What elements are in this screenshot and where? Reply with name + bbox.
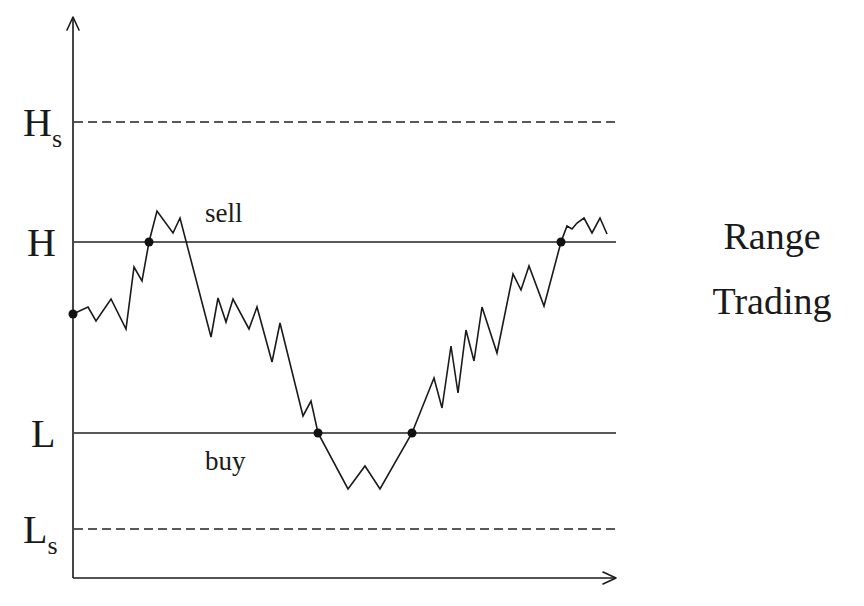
- title-line-2: Trading: [713, 280, 832, 322]
- level-label-h: H: [27, 220, 56, 265]
- level-labels: Hs H L Ls: [23, 100, 62, 560]
- crossing-markers: [69, 238, 566, 438]
- crossing-marker-start: [69, 310, 78, 319]
- price-path: [73, 211, 607, 489]
- buy-annotation: buy: [205, 446, 246, 476]
- title-line-1: Range: [723, 215, 820, 257]
- diagram-title: Range Trading: [713, 215, 832, 322]
- crossing-marker-cross-H-up-2: [557, 238, 566, 247]
- level-label-hs: Hs: [23, 100, 62, 153]
- crossing-marker-cross-L-up: [408, 429, 417, 438]
- level-label-l: L: [31, 411, 55, 456]
- level-lines: [74, 122, 616, 529]
- sell-annotation: sell: [205, 198, 243, 228]
- range-trading-diagram: Hs H L Ls sell buy Range Trading: [0, 0, 864, 606]
- crossing-marker-cross-H-up: [145, 238, 154, 247]
- level-label-ls: Ls: [23, 507, 58, 560]
- axes: [67, 17, 616, 584]
- crossing-marker-cross-L-down: [314, 429, 323, 438]
